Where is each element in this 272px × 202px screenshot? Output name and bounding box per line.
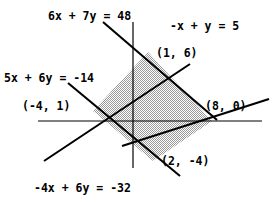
equation-label-5x-6y-neg14: 5x + 6y = -14 (4, 72, 94, 84)
vertex-label-neg4-1: (-4, 1) (22, 100, 70, 112)
feasible-region-shading (93, 52, 212, 161)
equation-label-neg-x-y-5: -x + y = 5 (170, 20, 239, 32)
equation-label-neg4x-6y-neg32: -4x + 6y = -32 (34, 182, 131, 194)
vertex-label-2-neg4: (2, -4) (161, 155, 209, 167)
graph-figure: 6x + 7y = 48 -x + y = 5 5x + 6y = -14 -4… (0, 0, 272, 202)
equation-label-6x-7y-48: 6x + 7y = 48 (48, 10, 131, 22)
vertex-label-1-6: (1, 6) (156, 47, 198, 59)
vertex-label-8-0: (8, 0) (205, 100, 247, 112)
